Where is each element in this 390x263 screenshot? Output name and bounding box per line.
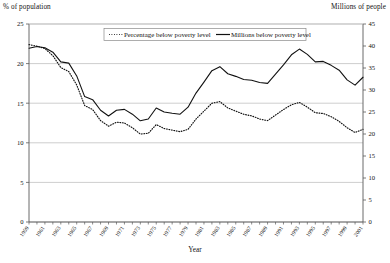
svg-text:1995: 1995 xyxy=(305,225,316,238)
svg-text:1977: 1977 xyxy=(162,225,173,238)
svg-text:1961: 1961 xyxy=(34,225,45,238)
svg-text:1987: 1987 xyxy=(241,225,252,238)
svg-text:1991: 1991 xyxy=(273,225,284,238)
series-line xyxy=(29,46,363,120)
svg-text:Millions below poverty level: Millions below poverty level xyxy=(231,31,311,38)
svg-text:0: 0 xyxy=(369,218,373,225)
svg-text:1993: 1993 xyxy=(289,225,300,238)
y-axis-right-ticks: 051015202530354045 xyxy=(363,20,376,225)
svg-text:1971: 1971 xyxy=(114,225,125,238)
svg-text:Percentage below poverty level: Percentage below poverty level xyxy=(124,31,211,38)
svg-text:20: 20 xyxy=(369,130,376,137)
svg-text:1981: 1981 xyxy=(193,225,204,238)
gridlines xyxy=(29,24,363,222)
svg-text:1963: 1963 xyxy=(50,225,61,238)
svg-text:5: 5 xyxy=(369,196,373,203)
svg-text:1989: 1989 xyxy=(257,225,268,238)
plot-frame xyxy=(29,24,363,222)
svg-text:2001: 2001 xyxy=(352,225,363,238)
svg-text:25: 25 xyxy=(17,20,24,27)
svg-text:45: 45 xyxy=(369,20,376,27)
svg-text:1997: 1997 xyxy=(321,225,332,238)
svg-text:1985: 1985 xyxy=(225,225,236,238)
chart-legend: Percentage below poverty levelMillions b… xyxy=(104,29,311,41)
chart-plot-area: 0510152025 051015202530354045 1959196119… xyxy=(0,0,390,263)
svg-text:1959: 1959 xyxy=(18,225,29,238)
svg-text:1973: 1973 xyxy=(130,225,141,238)
svg-text:1975: 1975 xyxy=(146,225,157,238)
svg-text:1999: 1999 xyxy=(337,225,348,238)
svg-text:15: 15 xyxy=(369,152,376,159)
svg-text:5: 5 xyxy=(20,179,24,186)
x-axis-ticks: 1959196119631965196719691971197319751977… xyxy=(18,222,363,238)
svg-text:30: 30 xyxy=(369,86,376,93)
data-series-layer xyxy=(29,45,363,135)
svg-text:10: 10 xyxy=(17,139,24,146)
svg-text:0: 0 xyxy=(20,218,24,225)
svg-text:1967: 1967 xyxy=(82,225,93,238)
svg-text:1965: 1965 xyxy=(66,225,77,238)
poverty-chart: % of population Millions of people Year … xyxy=(0,0,390,263)
series-line xyxy=(29,45,363,135)
svg-text:25: 25 xyxy=(369,108,376,115)
svg-text:10: 10 xyxy=(369,174,376,181)
svg-text:40: 40 xyxy=(369,42,376,49)
svg-text:35: 35 xyxy=(369,64,376,71)
svg-text:20: 20 xyxy=(17,60,24,67)
svg-text:1979: 1979 xyxy=(178,225,189,238)
y-axis-left-ticks: 0510152025 xyxy=(17,20,29,225)
svg-text:1969: 1969 xyxy=(98,225,109,238)
svg-text:1983: 1983 xyxy=(209,225,220,238)
svg-text:15: 15 xyxy=(17,100,24,107)
